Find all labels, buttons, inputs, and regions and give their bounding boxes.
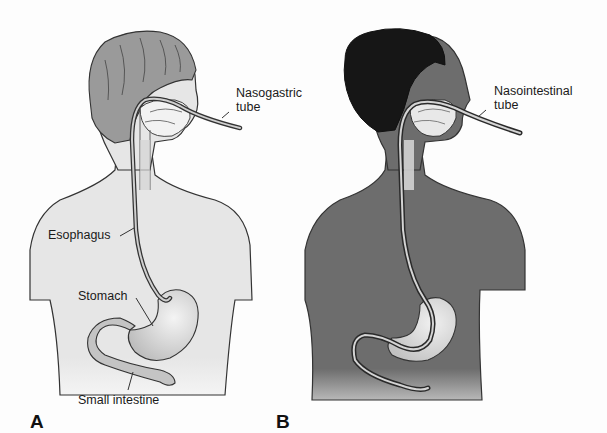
label-line-2: tube: [236, 100, 302, 114]
esophagus-label: Esophagus: [48, 228, 111, 242]
illustration: [0, 0, 607, 433]
label-line-1: Nasogastric: [236, 86, 302, 100]
panel-letter-a: A: [30, 411, 44, 433]
label-line-2: tube: [494, 98, 573, 112]
patient-b-figure: [305, 29, 525, 400]
figure-canvas: Nasogastric tube Esophagus Stomach Small…: [0, 0, 607, 433]
panel-letter-b: B: [276, 411, 290, 433]
small-intestine-label: Small intestine: [78, 393, 159, 407]
stomach-label: Stomach: [78, 289, 127, 303]
nasointestinal-tube-label: Nasointestinal tube: [494, 84, 573, 112]
nasogastric-tube-label: Nasogastric tube: [236, 86, 302, 114]
label-line-1: Nasointestinal: [494, 84, 573, 98]
patient-a-figure: [30, 31, 252, 395]
